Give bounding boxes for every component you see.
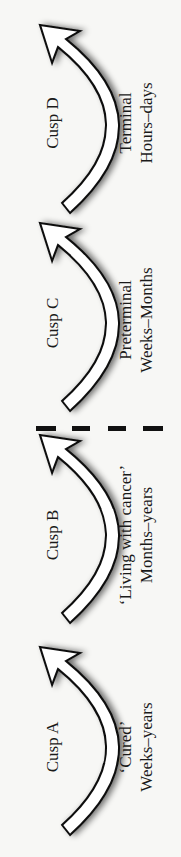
- cusp-d-label: Terminal: [116, 92, 136, 153]
- cusp-a-label: ‘Cured’: [116, 721, 136, 774]
- cusp-c-title: Cusp C: [43, 298, 63, 349]
- cusp-b-title: Cusp B: [43, 510, 63, 561]
- cusp-diagram: Cusp A ‘Cured’ Weeks–years Cusp B ‘Livin…: [0, 0, 181, 857]
- cusp-b-duration: Months–years: [137, 487, 157, 583]
- cusp-d-title: Cusp D: [43, 97, 63, 148]
- cusp-a-duration: Weeks–years: [137, 702, 157, 791]
- cusp-d-duration: Hours–days: [137, 82, 157, 163]
- cusp-c-duration: Weeks–Months: [137, 267, 157, 372]
- cusp-c-label: Preterminal: [116, 280, 136, 359]
- phase-divider: [36, 426, 163, 431]
- cusp-a-title: Cusp A: [43, 722, 63, 773]
- cusp-b-label: ‘Living with cancer’: [116, 465, 136, 605]
